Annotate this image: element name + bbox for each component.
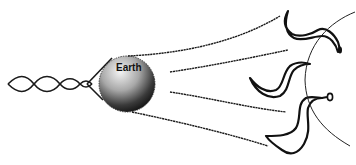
- plasma-middle: [250, 63, 310, 97]
- earth-label: Earth: [116, 62, 142, 73]
- plasma-structures: [250, 11, 342, 153]
- diagram-canvas: Earth: [0, 0, 356, 165]
- plasma-top: [285, 11, 340, 52]
- earth-sphere: Earth: [99, 56, 155, 112]
- twisted-tail: [8, 58, 112, 100]
- plasma-bottom: [266, 97, 322, 153]
- diagram-svg: Earth: [0, 0, 356, 165]
